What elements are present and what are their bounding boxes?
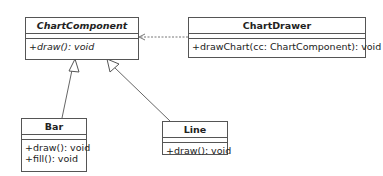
generalization-arrow-line-to-chartcomponent [107, 59, 170, 121]
dependency-arrow-chartdrawer-to-chartcomponent [139, 34, 188, 40]
class-name: ChartComponent [26, 18, 138, 34]
operation: +drawChart(cc: ChartComponent): void [192, 41, 362, 52]
operation: +fill(): void [25, 153, 83, 164]
class-chartcomponent[interactable]: ChartComponent +draw(): void [25, 17, 139, 60]
operations-compartment: +draw(): void +fill(): void [22, 140, 86, 166]
class-bar[interactable]: Bar +draw(): void +fill(): void [21, 118, 87, 172]
operation: +draw(): void [29, 41, 135, 52]
class-line[interactable]: Line +draw(): void [162, 121, 228, 155]
class-chartdrawer[interactable]: ChartDrawer +drawChart(cc: ChartComponen… [188, 17, 366, 58]
operations-compartment: +draw(): void [163, 143, 227, 158]
operations-compartment: +drawChart(cc: ChartComponent): void [189, 39, 365, 54]
class-name: ChartDrawer [189, 18, 365, 34]
operation: +draw(): void [25, 142, 83, 153]
class-name: Line [163, 122, 227, 138]
class-name: Bar [22, 119, 86, 135]
generalization-arrow-bar-to-chartcomponent [62, 59, 79, 118]
operations-compartment: +draw(): void [26, 39, 138, 54]
operation: +draw(): void [166, 145, 224, 156]
